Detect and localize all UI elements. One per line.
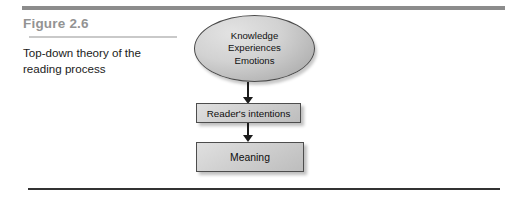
figure-container: Figure 2.6 Top-down theory of the readin… bbox=[0, 0, 521, 198]
node-readers-intentions: Reader's intentions bbox=[196, 103, 301, 123]
node-line-emotions: Emotions bbox=[235, 55, 275, 67]
figure-number: Figure 2.6 bbox=[23, 16, 183, 32]
node-label-readers-intentions: Reader's intentions bbox=[207, 108, 291, 119]
bottom-divider-rule bbox=[28, 188, 500, 190]
figure-caption-block: Figure 2.6 Top-down theory of the readin… bbox=[23, 16, 183, 77]
connector-arrow-sources-to-intentions bbox=[247, 82, 249, 97]
node-knowledge-experiences-emotions: Knowledge Experiences Emotions bbox=[194, 15, 315, 82]
figure-title-underline bbox=[29, 36, 177, 38]
node-label-meaning: Meaning bbox=[230, 152, 270, 163]
connector-arrow-intentions-to-meaning bbox=[247, 123, 249, 135]
node-line-knowledge: Knowledge bbox=[231, 30, 278, 42]
node-meaning: Meaning bbox=[196, 142, 304, 172]
figure-caption-text: Top-down theory of the reading process bbox=[23, 45, 175, 77]
node-line-experiences: Experiences bbox=[228, 42, 281, 54]
arrow-head-icon bbox=[243, 135, 253, 142]
top-divider-rule bbox=[22, 6, 505, 10]
